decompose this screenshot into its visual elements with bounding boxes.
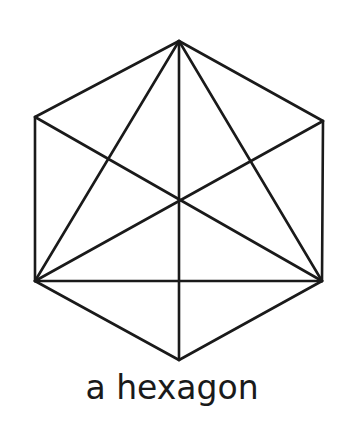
- edge-top-to-upper-right: [179, 41, 323, 121]
- edge-bottom-to-lower-left: [35, 281, 179, 360]
- hexagon-diagram: [0, 0, 344, 426]
- edge-lower-right-to-bottom: [179, 281, 322, 360]
- line-top-to-lower-left: [35, 41, 179, 281]
- edge-upper-right-to-lower-right: [322, 121, 323, 281]
- caption: a hexagon: [0, 366, 344, 410]
- line-top-to-lower-right: [179, 41, 322, 281]
- interior-lines: [35, 41, 323, 360]
